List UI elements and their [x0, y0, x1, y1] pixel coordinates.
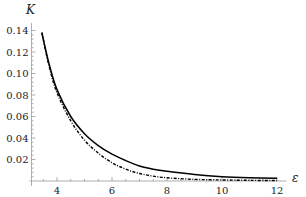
series-solid-line: [42, 33, 277, 179]
chart: 46810120.020.040.060.080.100.120.14 K ε: [0, 0, 306, 197]
axes: [30, 23, 287, 186]
x-tick-label: 12: [271, 185, 284, 196]
y-tick-label: 0.04: [6, 133, 28, 144]
x-tick-label: 4: [54, 185, 60, 196]
series-group: [42, 33, 277, 181]
y-axis-title: K: [25, 3, 36, 17]
y-tick-label: 0.06: [6, 111, 28, 122]
y-tick-label: 0.02: [6, 154, 28, 165]
y-tick-label: 0.12: [6, 47, 28, 58]
x-tick-label: 6: [109, 185, 115, 196]
series-dashed-line: [42, 33, 277, 181]
y-tick-label: 0.10: [6, 68, 28, 79]
x-tick-label: 8: [164, 185, 170, 196]
x-tick-label: 10: [216, 185, 229, 196]
y-tick-label: 0.08: [6, 90, 28, 101]
y-tick-label: 0.14: [6, 25, 28, 36]
x-axis-title: ε: [292, 171, 298, 185]
ticks: 46810120.020.040.060.080.100.120.14: [6, 25, 283, 196]
